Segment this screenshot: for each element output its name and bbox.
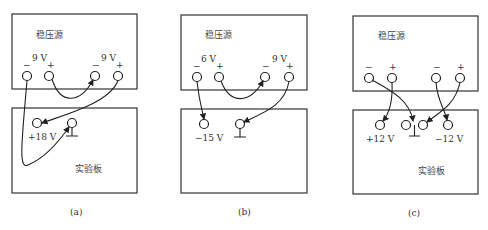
terminal-ground-left[interactable]	[402, 121, 411, 130]
terminal-left-minus[interactable]	[193, 73, 202, 82]
caption: (c)	[408, 208, 420, 218]
plus-sign: +	[457, 62, 465, 72]
terminal-right-minus[interactable]	[261, 73, 270, 82]
left-voltage-label: 6 V	[201, 54, 217, 64]
power-supply-label: 稳压源	[378, 30, 405, 41]
ground-icon	[234, 129, 246, 138]
caption: (b)	[238, 207, 251, 217]
minus-sign: −	[365, 62, 373, 72]
experiment-board-box	[353, 110, 478, 194]
plus-sign: +	[47, 60, 55, 70]
plus-sign: +	[216, 61, 224, 71]
terminal-right-plus[interactable]	[456, 74, 465, 83]
minus-sign: −	[92, 60, 100, 70]
pos-output-label: +12 V	[366, 134, 395, 144]
minus-sign: −	[433, 62, 441, 72]
terminal-right-plus[interactable]	[285, 73, 294, 82]
neg-output-label: −12 V	[435, 134, 464, 144]
left-voltage-label: 9 V	[32, 53, 48, 63]
output-label: +18 V	[28, 132, 57, 142]
terminal-ground[interactable]	[68, 119, 77, 128]
terminal-right-minus[interactable]	[432, 74, 441, 83]
wire-minus-output	[197, 82, 204, 120]
minus-sign: −	[262, 61, 270, 71]
wire-ground	[22, 81, 69, 166]
panel-a: 稳压源 9 V 9 V − + − + +18 V 实验板 (a)	[12, 14, 137, 217]
terminal-ground[interactable]	[236, 120, 245, 129]
output-label: −15 V	[195, 133, 224, 143]
plus-sign: +	[116, 60, 124, 70]
terminal-ground-right[interactable]	[419, 121, 428, 130]
plus-sign: +	[286, 61, 294, 71]
wire-ground	[244, 82, 289, 123]
minus-sign: −	[193, 61, 201, 71]
right-voltage-label: 9 V	[101, 53, 117, 63]
panel-b: 稳压源 6 V 9 V − + − + −15 V (b)	[181, 15, 307, 217]
plus-sign: +	[389, 62, 397, 72]
experiment-board-label: 实验板	[418, 165, 445, 176]
minus-sign: −	[23, 60, 31, 70]
power-supply-label: 稳压源	[205, 29, 232, 40]
power-supply-label: 稳压源	[36, 29, 63, 40]
wire-right-plus-ground	[427, 83, 460, 123]
caption: (a)	[70, 207, 82, 217]
wire-plus-output	[42, 81, 118, 124]
terminal-minus-12v[interactable]	[444, 121, 453, 130]
panel-c: 稳压源 − + − + +12 V −12 V 实验板 (c)	[353, 16, 478, 218]
terminal-left-plus[interactable]	[215, 73, 224, 82]
terminal-left-minus[interactable]	[23, 72, 32, 81]
terminal-plus-18v[interactable]	[33, 119, 42, 128]
terminal-right-minus[interactable]	[91, 72, 100, 81]
experiment-board-label: 实验板	[75, 163, 102, 174]
terminal-plus-12v[interactable]	[376, 121, 385, 130]
wire-plus-12v	[383, 83, 392, 122]
terminal-left-plus[interactable]	[388, 74, 397, 83]
power-supply-wiring-diagram: 稳压源 9 V 9 V − + − + +18 V 实验板 (a) 稳压源 6 …	[0, 0, 488, 230]
terminal-left-minus[interactable]	[365, 74, 374, 83]
terminal-right-plus[interactable]	[114, 72, 123, 81]
terminal-minus-15v[interactable]	[200, 120, 209, 129]
